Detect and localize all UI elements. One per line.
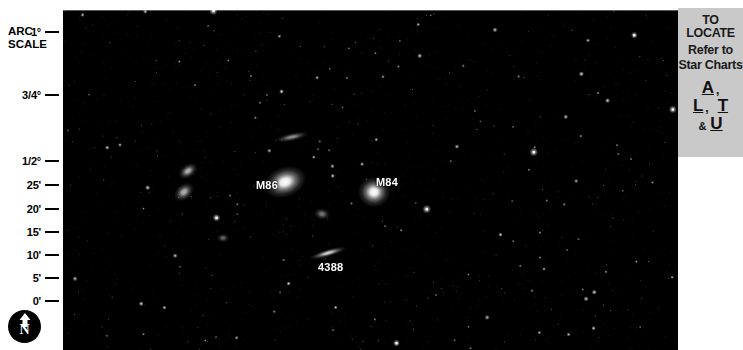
- star-chart-letter-row-2: L, T: [678, 97, 743, 114]
- arc-scale-tick-label: 1/2°: [22, 156, 41, 167]
- galaxy-label: M84: [376, 177, 398, 188]
- arc-scale-tick: 15': [27, 225, 63, 239]
- arc-scale-tick: 10': [27, 248, 63, 262]
- to-locate-subtitle-line2: Star Charts: [678, 57, 743, 72]
- sky-photograph: M86M844388: [63, 10, 678, 350]
- arc-scale-tick: 20': [27, 202, 63, 216]
- arc-scale-tick-mark: [45, 94, 59, 97]
- galaxy-label: M86: [256, 180, 278, 191]
- arc-scale-tick-mark: [45, 231, 59, 234]
- arc-scale-tick: 3/4°: [22, 88, 63, 102]
- chart-comma-1: ,: [716, 84, 719, 96]
- arc-scale-tick-label: 5': [33, 273, 41, 284]
- chart-comma-2: ,: [705, 102, 708, 114]
- to-locate-title: TO LOCATE: [678, 8, 743, 40]
- arc-scale-tick-mark: [45, 208, 59, 211]
- arc-scale-tick-label: 1°: [31, 27, 41, 38]
- arc-scale-tick-mark: [45, 160, 59, 163]
- starfield-canvas: [63, 10, 678, 350]
- arc-scale-tick-mark: [45, 184, 59, 187]
- arc-scale-tick-label: 0': [33, 296, 41, 307]
- arc-scale-tick: 0': [33, 294, 63, 308]
- arc-scale-tick-label: 3/4°: [22, 90, 41, 101]
- arc-scale-tick-mark: [45, 277, 59, 280]
- arc-scale-tick-mark: [45, 254, 59, 257]
- star-chart-letter-t[interactable]: T: [718, 97, 728, 114]
- arc-scale-tick: 5': [33, 271, 63, 285]
- arc-scale-title-line2: SCALE: [8, 38, 47, 51]
- arc-scale-tick-label: 10': [27, 250, 41, 261]
- to-locate-subtitle-line1: Refer to: [678, 40, 743, 57]
- star-chart-letters: A, L, T & U: [678, 73, 743, 132]
- star-atlas-page: ARC SCALE 1°3/4°1/2°25'20'15'10'5'0' N M…: [0, 0, 743, 350]
- arc-scale-tick: 1/2°: [22, 154, 63, 168]
- arc-scale-tick-label: 20': [27, 204, 41, 215]
- star-chart-letter-a[interactable]: A: [702, 79, 714, 96]
- arc-scale-tick-mark: [45, 31, 59, 34]
- compass-north-label: N: [8, 323, 41, 337]
- to-locate-panel: TO LOCATE Refer to Star Charts A, L, T &…: [678, 8, 743, 157]
- star-chart-letter-u[interactable]: U: [710, 115, 722, 132]
- arc-scale-tick-label: 15': [27, 227, 41, 238]
- arc-scale-tick-mark: [45, 300, 59, 303]
- galaxy-label: 4388: [318, 262, 343, 273]
- compass-rose: N: [8, 310, 41, 343]
- arc-scale-tick-label: 25': [27, 180, 41, 191]
- arc-scale-column: ARC SCALE 1°3/4°1/2°25'20'15'10'5'0' N: [0, 0, 63, 350]
- star-chart-letter-l[interactable]: L: [693, 97, 703, 114]
- ampersand: &: [698, 121, 708, 132]
- star-chart-letter-row-3: & U: [678, 115, 743, 132]
- arc-scale-tick: 25': [27, 178, 63, 192]
- star-chart-letter-row-1: A,: [678, 79, 743, 96]
- arc-scale-tick: 1°: [31, 25, 63, 39]
